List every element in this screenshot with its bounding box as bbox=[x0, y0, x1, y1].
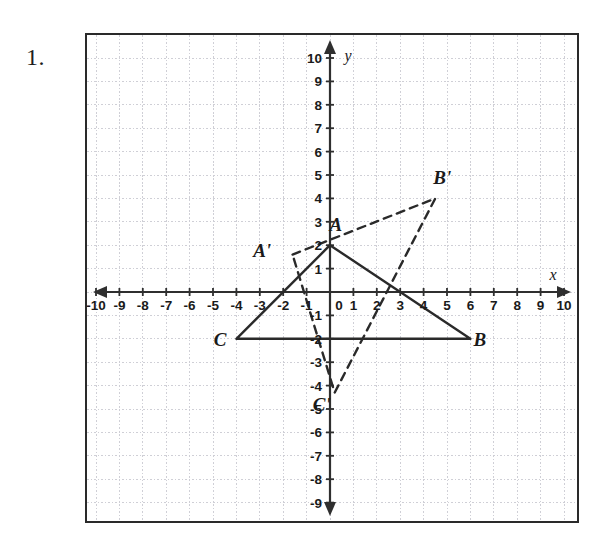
axis-name-labels: xy bbox=[342, 47, 556, 283]
x-tick-label: -8 bbox=[137, 298, 149, 313]
x-tick-label: -2 bbox=[277, 298, 289, 313]
x-tick-label: 3 bbox=[396, 298, 404, 313]
vertex-label-a: A bbox=[329, 214, 343, 235]
x-tick-label: 7 bbox=[490, 298, 498, 313]
y-tick-label: 5 bbox=[314, 168, 322, 183]
x-tick-label: 8 bbox=[513, 298, 521, 313]
coordinate-plane-graph: -10-9-8-7-6-5-4-3-2-1012345678910-10-9-8… bbox=[87, 35, 577, 521]
vertex-label-c-prime: C' bbox=[313, 394, 331, 415]
y-tick-label: 10 bbox=[307, 51, 322, 66]
x-tick-label: 2 bbox=[373, 298, 381, 313]
x-tick-label: -7 bbox=[160, 298, 172, 313]
problem-number-label: 1. bbox=[26, 44, 45, 71]
x-axis-name-label: x bbox=[548, 266, 556, 283]
y-tick-label: -8 bbox=[310, 472, 322, 487]
vertex-label-a-prime: A' bbox=[252, 240, 271, 261]
x-tick-label: 6 bbox=[467, 298, 475, 313]
y-tick-label: 6 bbox=[314, 145, 322, 160]
y-tick-label: 1 bbox=[314, 262, 322, 277]
y-tick-label: -9 bbox=[310, 496, 322, 511]
coordinate-plane-frame: -10-9-8-7-6-5-4-3-2-1012345678910-10-9-8… bbox=[85, 33, 579, 523]
x-tick-label: 0 bbox=[335, 298, 343, 313]
y-tick-label: 9 bbox=[314, 74, 322, 89]
y-axis-name-label: y bbox=[342, 47, 352, 65]
x-tick-label: -4 bbox=[230, 298, 242, 313]
vertex-label-b: B bbox=[472, 329, 486, 350]
x-tick-label: 9 bbox=[537, 298, 545, 313]
grid-lines bbox=[87, 35, 577, 521]
x-tick-label: -10 bbox=[87, 298, 106, 313]
y-tick-label: 2 bbox=[314, 238, 322, 253]
worksheet-page: 1. -10-9-8-7-6-5-4-3-2-1012345678910-10-… bbox=[0, 0, 603, 547]
y-tick-label: 7 bbox=[314, 121, 322, 136]
x-tick-label: 4 bbox=[420, 298, 428, 313]
axes bbox=[93, 40, 571, 516]
vertex-label-c: C bbox=[214, 329, 227, 350]
y-tick-label: -2 bbox=[310, 332, 322, 347]
y-tick-label: -3 bbox=[310, 355, 322, 370]
x-tick-label: 1 bbox=[350, 298, 358, 313]
coordinate-plane-inner: -10-9-8-7-6-5-4-3-2-1012345678910-10-9-8… bbox=[87, 35, 577, 521]
y-tick-label: 3 bbox=[314, 215, 322, 230]
x-tick-label: -9 bbox=[113, 298, 125, 313]
x-tick-label: -5 bbox=[207, 298, 219, 313]
y-tick-label: 8 bbox=[314, 98, 322, 113]
x-tick-label: -3 bbox=[254, 298, 266, 313]
y-tick-label: -7 bbox=[310, 449, 322, 464]
y-tick-label: -1 bbox=[310, 308, 322, 323]
x-tick-label: 10 bbox=[556, 298, 571, 313]
x-tick-label: -6 bbox=[184, 298, 196, 313]
y-tick-label: -4 bbox=[310, 379, 322, 394]
y-tick-label: -10 bbox=[302, 519, 322, 521]
y-tick-label: 4 bbox=[314, 191, 322, 206]
x-tick-label: 5 bbox=[443, 298, 451, 313]
vertex-label-b-prime: B' bbox=[432, 167, 451, 188]
y-tick-label: -6 bbox=[310, 425, 322, 440]
